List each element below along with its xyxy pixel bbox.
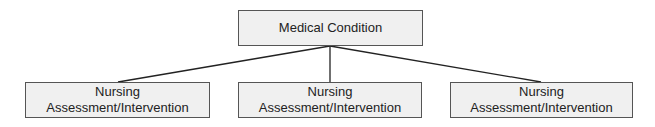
child-node-line2: Assessment/Intervention bbox=[259, 100, 401, 116]
child-node-middle: Nursing Assessment/Intervention bbox=[238, 82, 422, 118]
root-node-label: Medical Condition bbox=[279, 20, 382, 36]
child-node-line2: Assessment/Intervention bbox=[46, 100, 188, 116]
connector-right bbox=[330, 46, 541, 82]
child-node-line1: Nursing bbox=[95, 84, 140, 100]
child-node-line1: Nursing bbox=[519, 84, 564, 100]
child-node-left: Nursing Assessment/Intervention bbox=[25, 82, 210, 118]
child-node-line2: Assessment/Intervention bbox=[470, 100, 612, 116]
connector-left bbox=[118, 46, 330, 82]
child-node-right: Nursing Assessment/Intervention bbox=[450, 82, 633, 118]
root-node-medical-condition: Medical Condition bbox=[238, 10, 423, 46]
child-node-line1: Nursing bbox=[308, 84, 353, 100]
